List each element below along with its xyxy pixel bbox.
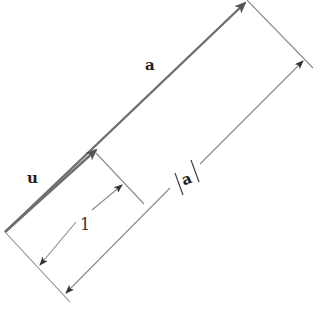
unit-dimension-line-lower bbox=[40, 222, 76, 265]
magnitude-dimension-line-upper bbox=[200, 61, 303, 164]
unit-dimension-line-upper bbox=[92, 185, 122, 210]
vector-a-line bbox=[5, 3, 245, 232]
origin-extension-line bbox=[5, 232, 70, 302]
vector-u-label: u bbox=[27, 169, 38, 187]
magnitude-dimension-line-lower bbox=[66, 188, 170, 293]
u-end-extension-line bbox=[96, 153, 144, 204]
magnitude-bar-right bbox=[191, 160, 199, 182]
vector-a-label: a bbox=[145, 56, 155, 74]
a-end-extension-line bbox=[247, 0, 313, 68]
vector-diagram: a u 1 a bbox=[0, 0, 322, 319]
unit-length-label: 1 bbox=[80, 215, 90, 234]
magnitude-label: a bbox=[179, 169, 195, 189]
